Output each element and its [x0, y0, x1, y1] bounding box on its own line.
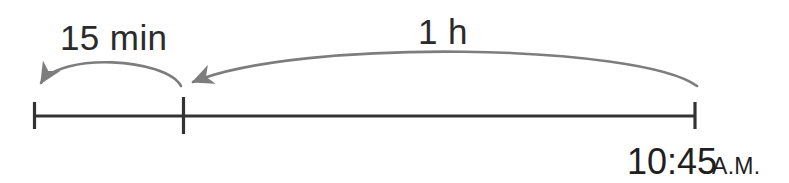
jump-arc-15-min — [41, 62, 181, 86]
jump-label-1-h: 1 h — [418, 12, 468, 51]
jump-label-15-min: 15 min — [60, 18, 167, 57]
end-time-meridiem: A.M. — [712, 153, 760, 179]
jump-arc-1-h — [193, 52, 697, 86]
timeline-figure: 15 min 1 h 10:45 A.M. — [0, 0, 789, 183]
number-line-diagram: 15 min 1 h 10:45 A.M. — [0, 0, 789, 183]
end-time-value: 10:45 — [627, 141, 717, 182]
